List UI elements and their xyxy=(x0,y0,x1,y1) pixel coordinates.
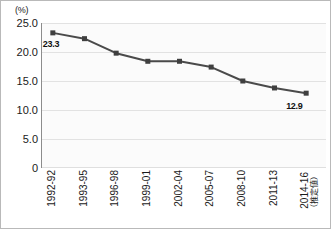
line-chart-svg xyxy=(41,23,326,168)
x-axis-tick: 2014-16（推定値） xyxy=(299,170,321,229)
data-point-marker xyxy=(272,85,277,90)
x-axis-tick-label: 2011-13 xyxy=(268,170,282,229)
y-axis-tick-label: 20.0 xyxy=(2,47,38,57)
data-point-marker xyxy=(240,79,245,84)
data-point-marker xyxy=(177,59,182,64)
data-point-marker xyxy=(82,36,87,41)
x-axis-tick-label: 2005-07 xyxy=(204,170,218,229)
x-axis-tick: 2005-07 xyxy=(204,170,226,229)
y-axis-tick-label: 15.0 xyxy=(2,76,38,86)
data-point-marker xyxy=(209,65,214,70)
x-axis-tick-sublabel: （推定値） xyxy=(310,172,319,229)
x-axis-tick: 2008-10 xyxy=(236,170,258,229)
y-axis-tick-label: 25.0 xyxy=(2,18,38,28)
x-axis-tick-label: 2014-16（推定値） xyxy=(299,172,313,229)
x-axis-tick-label: 1993-95 xyxy=(78,170,92,229)
y-axis-tick-label: 10.0 xyxy=(2,105,38,115)
data-point-marker xyxy=(50,30,55,35)
x-axis-tick: 2011-13 xyxy=(268,170,290,229)
y-axis-labels: 05.010.015.020.025.0 xyxy=(1,1,38,229)
x-axis-tick-label: 1992-92 xyxy=(46,170,60,229)
data-point-marker xyxy=(304,91,309,96)
chart-figure: (%) 05.010.015.020.025.0 23.312.9 1992-9… xyxy=(0,0,331,229)
x-axis-tick-label: 2002-04 xyxy=(173,170,187,229)
data-point-marker xyxy=(145,59,150,64)
gridlines xyxy=(41,23,326,168)
y-axis-tick-label: 5.0 xyxy=(2,134,38,144)
x-axis-tick-label: 2008-10 xyxy=(236,170,250,229)
data-point-marker xyxy=(114,51,119,56)
x-axis-tick: 2002-04 xyxy=(173,170,195,229)
plot-area: 23.312.9 xyxy=(41,23,326,168)
x-axis-tick: 1993-95 xyxy=(78,170,100,229)
x-axis-tick: 1996-98 xyxy=(109,170,131,229)
data-point-value-label: 12.9 xyxy=(286,101,302,111)
x-axis-tick: 1999-01 xyxy=(141,170,163,229)
x-axis-labels: 1992-921993-951996-981999-012002-042005-… xyxy=(41,170,326,229)
y-axis-tick-label: 0 xyxy=(2,163,38,173)
x-axis-tick: 1992-92 xyxy=(46,170,68,229)
data-point-value-label: 23.3 xyxy=(43,39,59,49)
x-axis-tick-label: 1999-01 xyxy=(141,170,155,229)
x-axis-tick-label: 1996-98 xyxy=(109,170,123,229)
